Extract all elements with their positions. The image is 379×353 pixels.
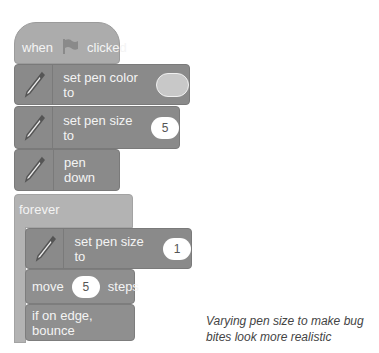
set-pen-color-block[interactable]: set pen color to (14, 64, 190, 105)
when-flag-clicked-block[interactable]: when clicked (14, 22, 120, 64)
move-steps-block[interactable]: move 5 steps (25, 269, 135, 304)
pen-down-block[interactable]: pen down (14, 149, 120, 191)
hat-suffix: clicked (87, 40, 127, 55)
pen-size-input[interactable]: 5 (151, 117, 179, 139)
pen-icon (15, 150, 54, 190)
set-pen-color-label: set pen color to (63, 70, 148, 100)
bounce-block[interactable]: if on edge, bounce (25, 304, 135, 341)
set-pen-size-block-inner[interactable]: set pen size to 1 (25, 228, 192, 269)
pen-icon (15, 107, 53, 148)
bounce-label: if on edge, bounce (32, 308, 134, 338)
caption-line-1: Varying pen size to make bug (206, 313, 376, 329)
pen-down-label: pen down (64, 155, 119, 185)
hat-prefix: when (22, 40, 53, 55)
caption-line-2: bites look more realistic (206, 329, 376, 345)
caption: Varying pen size to make bug bites look … (206, 313, 376, 345)
pen-icon (26, 229, 64, 268)
set-pen-size-block[interactable]: set pen size to 5 (14, 106, 180, 149)
pen-color-swatch[interactable] (156, 73, 189, 97)
set-pen-size-label: set pen size to (63, 113, 143, 143)
move-steps-input[interactable]: 5 (72, 276, 100, 298)
forever-block[interactable]: forever (14, 194, 133, 228)
pen-size-input[interactable]: 1 (163, 238, 191, 260)
move-prefix: move (32, 279, 64, 294)
move-suffix: steps (108, 279, 139, 294)
forever-label: forever (19, 202, 59, 217)
green-flag-icon (61, 38, 79, 57)
set-pen-size-label: set pen size to (74, 234, 155, 264)
pen-icon (15, 65, 53, 104)
